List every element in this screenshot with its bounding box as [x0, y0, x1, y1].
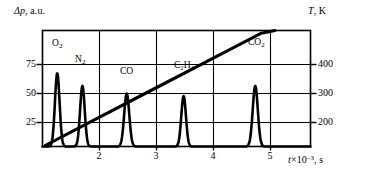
axis-ticks-left [37, 65, 43, 123]
axis-ticks-right [311, 65, 317, 123]
gridlines-vertical [100, 31, 271, 147]
figure-root: Δp, a.u. T, K 75 50 25 400 300 200 2 3 4… [0, 0, 368, 184]
plot-canvas [0, 0, 368, 184]
